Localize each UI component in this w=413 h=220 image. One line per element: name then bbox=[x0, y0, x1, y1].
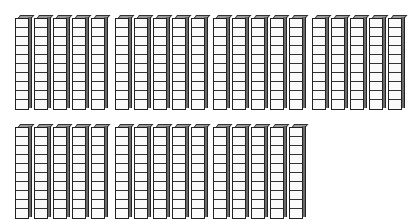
unit-cube bbox=[16, 64, 28, 73]
unit-cube bbox=[214, 128, 226, 137]
tens-rod bbox=[115, 15, 131, 110]
unit-cube bbox=[290, 173, 302, 182]
unit-cube bbox=[54, 173, 66, 182]
unit-cube bbox=[92, 128, 104, 137]
tens-rod bbox=[213, 15, 229, 110]
unit-cube bbox=[116, 55, 128, 64]
unit-cube bbox=[370, 64, 382, 73]
unit-cube bbox=[154, 209, 166, 218]
unit-cube bbox=[35, 155, 47, 164]
unit-cube bbox=[233, 137, 245, 146]
unit-cube bbox=[214, 46, 226, 55]
unit-cube bbox=[233, 146, 245, 155]
unit-cube bbox=[73, 146, 85, 155]
unit-cube bbox=[233, 55, 245, 64]
unit-cube bbox=[214, 200, 226, 209]
rod-front-face bbox=[369, 18, 383, 110]
unit-cube bbox=[290, 128, 302, 137]
unit-cube bbox=[116, 191, 128, 200]
unit-cube bbox=[192, 28, 204, 37]
unit-cube bbox=[154, 200, 166, 209]
unit-cube bbox=[290, 82, 302, 91]
unit-cube bbox=[233, 200, 245, 209]
unit-cube bbox=[154, 128, 166, 137]
unit-cube bbox=[370, 73, 382, 82]
unit-cube bbox=[290, 155, 302, 164]
unit-cube bbox=[271, 91, 283, 100]
unit-cube bbox=[73, 173, 85, 182]
unit-cube bbox=[16, 164, 28, 173]
tens-rod bbox=[34, 124, 50, 219]
unit-cube bbox=[271, 19, 283, 28]
unit-cube bbox=[173, 146, 185, 155]
unit-cube bbox=[370, 55, 382, 64]
tens-rod bbox=[134, 15, 150, 110]
unit-cube bbox=[154, 55, 166, 64]
unit-cube bbox=[332, 82, 344, 91]
unit-cube bbox=[35, 209, 47, 218]
unit-cube bbox=[16, 191, 28, 200]
unit-cube bbox=[389, 73, 401, 82]
unit-cube bbox=[116, 182, 128, 191]
tens-rod bbox=[153, 15, 169, 110]
unit-cube bbox=[271, 155, 283, 164]
unit-cube bbox=[73, 200, 85, 209]
unit-cube bbox=[252, 146, 264, 155]
unit-cube bbox=[233, 28, 245, 37]
unit-cube bbox=[154, 37, 166, 46]
rod-front-face bbox=[91, 18, 105, 110]
unit-cube bbox=[35, 46, 47, 55]
unit-cube bbox=[173, 82, 185, 91]
unit-cube bbox=[173, 73, 185, 82]
unit-cube bbox=[73, 91, 85, 100]
unit-cube bbox=[389, 28, 401, 37]
unit-cube bbox=[252, 200, 264, 209]
unit-cube bbox=[233, 100, 245, 109]
unit-cube bbox=[389, 91, 401, 100]
rod-front-face bbox=[34, 18, 48, 110]
unit-cube bbox=[54, 73, 66, 82]
unit-cube bbox=[290, 46, 302, 55]
rod-front-face bbox=[331, 18, 345, 110]
unit-cube bbox=[271, 191, 283, 200]
rod-front-face bbox=[350, 18, 364, 110]
unit-cube bbox=[252, 28, 264, 37]
rod-front-face bbox=[115, 127, 129, 219]
rod-front-face bbox=[251, 127, 265, 219]
unit-cube bbox=[135, 164, 147, 173]
unit-cube bbox=[370, 28, 382, 37]
tens-rod bbox=[213, 124, 229, 219]
rod-front-face bbox=[191, 18, 205, 110]
unit-cube bbox=[233, 155, 245, 164]
unit-cube bbox=[351, 19, 363, 28]
unit-cube bbox=[252, 155, 264, 164]
unit-cube bbox=[92, 46, 104, 55]
unit-cube bbox=[92, 164, 104, 173]
unit-cube bbox=[252, 100, 264, 109]
unit-cube bbox=[173, 91, 185, 100]
unit-cube bbox=[16, 182, 28, 191]
tens-rod bbox=[53, 124, 69, 219]
unit-cube bbox=[192, 82, 204, 91]
unit-cube bbox=[73, 209, 85, 218]
unit-cube bbox=[135, 173, 147, 182]
unit-cube bbox=[116, 209, 128, 218]
unit-cube bbox=[389, 37, 401, 46]
unit-cube bbox=[252, 37, 264, 46]
unit-cube bbox=[214, 209, 226, 218]
unit-cube bbox=[92, 137, 104, 146]
unit-cube bbox=[351, 46, 363, 55]
unit-cube bbox=[116, 155, 128, 164]
unit-cube bbox=[16, 200, 28, 209]
unit-cube bbox=[313, 46, 325, 55]
unit-cube bbox=[116, 128, 128, 137]
unit-cube bbox=[173, 128, 185, 137]
unit-cube bbox=[389, 100, 401, 109]
rod-front-face bbox=[232, 127, 246, 219]
unit-cube bbox=[233, 82, 245, 91]
unit-cube bbox=[370, 46, 382, 55]
tens-rod bbox=[270, 15, 286, 110]
unit-cube bbox=[135, 100, 147, 109]
unit-cube bbox=[92, 100, 104, 109]
unit-cube bbox=[233, 164, 245, 173]
